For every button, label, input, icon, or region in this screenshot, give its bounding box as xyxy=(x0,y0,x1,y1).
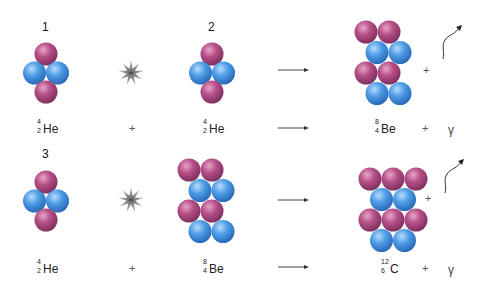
mass-number: 8 xyxy=(203,258,207,265)
proton-sphere xyxy=(378,62,401,85)
proton-sphere xyxy=(382,209,405,232)
neutron-sphere xyxy=(389,41,412,64)
mass-number: 12 xyxy=(381,258,389,265)
product-plus-sign: + xyxy=(422,262,428,274)
atomic-number: 2 xyxy=(37,127,41,134)
atomic-number: 2 xyxy=(37,267,41,274)
plus-sign: + xyxy=(129,262,135,274)
photon-plus-sign: + xyxy=(423,64,429,76)
mass-number: 4 xyxy=(37,258,41,265)
product-label: 126C xyxy=(381,262,399,276)
product-plus-sign: + xyxy=(422,122,428,134)
helium-4-nucleus xyxy=(189,43,235,104)
plus-sign: + xyxy=(129,122,135,134)
neutron-sphere xyxy=(370,229,393,252)
reactant2-label: 84Be xyxy=(203,262,224,276)
proton-sphere xyxy=(178,200,201,223)
photon-plus-sign: + xyxy=(425,192,431,204)
proton-sphere xyxy=(201,159,224,182)
carbon-12-nucleus xyxy=(359,168,428,253)
step-number-1: 1 xyxy=(42,20,49,34)
beryllium-8-nucleus xyxy=(355,21,412,106)
proton-sphere xyxy=(355,21,378,44)
step-number-3: 3 xyxy=(42,147,49,161)
wavy-photon-arrow-icon xyxy=(443,25,462,59)
wavy-photon-arrow-icon xyxy=(445,159,464,193)
neutron-sphere xyxy=(389,82,412,105)
reaction-arrow-icon xyxy=(278,265,309,269)
mass-number: 8 xyxy=(375,118,379,125)
proton-sphere xyxy=(201,81,224,104)
reactant2-label: 42He xyxy=(203,122,224,136)
helium-4-nucleus xyxy=(23,43,69,104)
proton-sphere xyxy=(359,168,382,191)
mass-number: 4 xyxy=(203,118,207,125)
proton-sphere xyxy=(178,159,201,182)
beryllium-8-nucleus xyxy=(178,159,235,244)
mass-number: 4 xyxy=(37,118,41,125)
gamma-label: γ xyxy=(448,123,454,137)
neutron-sphere xyxy=(212,179,235,202)
atomic-number: 6 xyxy=(381,267,385,274)
atomic-number: 4 xyxy=(203,267,207,274)
reaction-arrow-icon xyxy=(278,198,309,202)
proton-sphere xyxy=(382,168,405,191)
reactant1-label: 42He xyxy=(37,262,58,276)
neutron-sphere xyxy=(370,188,393,211)
proton-sphere xyxy=(405,209,428,232)
neutron-sphere xyxy=(189,220,212,243)
neutron-sphere xyxy=(393,188,416,211)
proton-sphere xyxy=(201,200,224,223)
proton-sphere xyxy=(35,81,58,104)
reaction-arrow-icon xyxy=(278,126,309,130)
atomic-number: 2 xyxy=(203,127,207,134)
atomic-number: 4 xyxy=(375,127,379,134)
proton-sphere xyxy=(405,168,428,191)
proton-sphere xyxy=(355,62,378,85)
proton-sphere xyxy=(378,21,401,44)
reaction-arrow-icon xyxy=(278,68,309,72)
neutron-sphere xyxy=(212,220,235,243)
gamma-label: γ xyxy=(448,263,454,277)
product-label: 84Be xyxy=(375,122,396,136)
diagram-canvas xyxy=(0,0,494,293)
helium-4-nucleus xyxy=(23,171,69,232)
neutron-sphere xyxy=(393,229,416,252)
neutron-sphere xyxy=(366,82,389,105)
neutron-sphere xyxy=(366,41,389,64)
proton-sphere xyxy=(359,209,382,232)
reactant1-label: 42He xyxy=(37,122,58,136)
neutron-sphere xyxy=(189,179,212,202)
step-number-2: 2 xyxy=(208,20,215,34)
proton-sphere xyxy=(35,209,58,232)
